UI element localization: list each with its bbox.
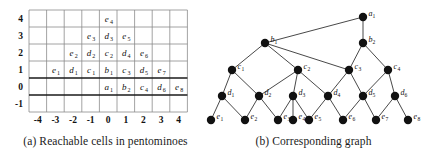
svg-text:e: e xyxy=(122,31,126,41)
node-dot xyxy=(339,116,347,124)
svg-text:1: 1 xyxy=(92,70,95,76)
svg-text:2: 2 xyxy=(308,66,311,72)
x-axis-tick-label: 3 xyxy=(159,115,164,125)
graph-node-c4: c4 xyxy=(384,62,401,74)
svg-text:8: 8 xyxy=(418,116,421,122)
correspondence-graph: a1b1b2c1c2c3c4d1d2d3d4d5d6e1e2e3e4e5e6e7… xyxy=(205,0,422,130)
x-axis-tick-label: -4 xyxy=(34,115,42,125)
svg-text:c: c xyxy=(140,82,144,92)
x-axis-tick-label: 1 xyxy=(123,115,128,125)
svg-text:c: c xyxy=(105,48,109,58)
svg-text:2: 2 xyxy=(92,53,95,59)
node-dot xyxy=(207,116,215,124)
x-axis-tick-label: -3 xyxy=(51,115,59,125)
pentomino-grid: e4e3d3e5e2d2c2d4e6e1d1c1b1c3d5e7a1b2c4d6… xyxy=(0,0,211,128)
grid-cell-label-e6: e6 xyxy=(140,48,148,59)
svg-text:e: e xyxy=(87,31,91,41)
node-dot xyxy=(274,116,282,124)
graph-node-a1: a1 xyxy=(359,9,376,21)
grid-cell-label-e5: e5 xyxy=(122,31,130,42)
svg-text:1: 1 xyxy=(242,66,245,72)
figure-two-panels: e4e3d3e5e2d2c2d4e6e1d1c1b1c3d5e7a1b2c4d6… xyxy=(0,0,422,149)
grid-cell-label-d1: d1 xyxy=(69,65,77,76)
graph-node-c2: c2 xyxy=(294,62,311,74)
y-axis-tick-label: -1 xyxy=(15,99,23,109)
svg-text:2: 2 xyxy=(373,39,376,45)
node-dot xyxy=(289,92,297,100)
svg-text:d: d xyxy=(140,65,145,75)
node-dot xyxy=(391,92,399,100)
grid-cell-label-e8: e8 xyxy=(175,82,183,93)
y-axis-tick-label: 3 xyxy=(18,31,23,41)
x-axis-tick-label: -2 xyxy=(69,115,77,125)
y-axis-tick-label: 1 xyxy=(18,65,23,75)
svg-text:3: 3 xyxy=(110,36,113,42)
svg-text:1: 1 xyxy=(57,70,60,76)
graph-edge xyxy=(265,17,363,43)
x-axis-tick-label: 2 xyxy=(141,115,146,125)
grid-cell-label-c1: c1 xyxy=(87,65,95,76)
svg-text:4: 4 xyxy=(128,53,131,59)
svg-text:7: 7 xyxy=(386,116,389,122)
svg-text:c: c xyxy=(122,65,126,75)
graph-node-e8: e8 xyxy=(404,112,421,124)
svg-text:5: 5 xyxy=(145,70,148,76)
node-dot xyxy=(384,66,392,74)
graph-edge xyxy=(363,70,388,96)
y-axis-tick-label: 0 xyxy=(18,82,23,92)
y-axis-tick-label: 4 xyxy=(18,14,23,24)
grid-cell-label-d4: d4 xyxy=(122,48,130,59)
svg-text:d: d xyxy=(157,82,162,92)
graph-node-c3: c3 xyxy=(345,62,362,74)
graph-edge xyxy=(363,43,388,70)
svg-text:e: e xyxy=(105,14,109,24)
graph-node-e1: e1 xyxy=(207,112,224,124)
svg-text:4: 4 xyxy=(398,66,401,72)
svg-text:d: d xyxy=(122,48,127,58)
svg-text:1: 1 xyxy=(75,70,78,76)
node-dot xyxy=(345,66,353,74)
svg-text:e: e xyxy=(175,82,179,92)
svg-text:2: 2 xyxy=(255,116,258,122)
svg-text:e: e xyxy=(70,48,74,58)
grid-cell-label-e3: e3 xyxy=(87,31,95,42)
svg-text:5: 5 xyxy=(373,92,376,98)
graph-node-d1: d1 xyxy=(218,88,235,100)
x-axis-tick-label: 0 xyxy=(106,115,111,125)
svg-text:4: 4 xyxy=(110,19,113,25)
svg-text:6: 6 xyxy=(163,87,166,93)
svg-text:1: 1 xyxy=(232,92,235,98)
grid-cell-label-c4: c4 xyxy=(140,82,148,93)
graph-node-d5: d5 xyxy=(359,88,376,100)
node-dot xyxy=(261,39,269,47)
graph-edge xyxy=(259,96,278,120)
grid-cell-label-d3: d3 xyxy=(104,31,112,42)
grid-cell-label-c2: c2 xyxy=(105,48,113,59)
grid-cell-label-d5: d5 xyxy=(140,65,148,76)
grid-cell-label-d2: d2 xyxy=(87,48,95,59)
grid-cell-label-b1: b1 xyxy=(104,65,112,76)
svg-text:6: 6 xyxy=(405,92,408,98)
node-dot xyxy=(241,116,249,124)
graph-node-c1: c1 xyxy=(228,62,245,74)
graph-edge xyxy=(328,96,343,120)
grid-cell-label-e2: e2 xyxy=(70,48,78,59)
svg-text:8: 8 xyxy=(180,87,183,93)
svg-text:1: 1 xyxy=(110,70,113,76)
svg-text:4: 4 xyxy=(145,87,148,93)
graph-node-e5: e5 xyxy=(305,112,322,124)
svg-text:1: 1 xyxy=(110,87,113,93)
graph-edge xyxy=(232,70,259,96)
node-dot xyxy=(289,116,297,124)
grid-cell-label-b2: b2 xyxy=(122,82,130,93)
node-dot xyxy=(294,66,302,74)
svg-text:5: 5 xyxy=(128,36,131,42)
grid-cell-label-a1: a1 xyxy=(104,82,112,93)
svg-text:d: d xyxy=(69,65,74,75)
svg-text:2: 2 xyxy=(110,53,113,59)
graph-edge xyxy=(265,43,298,70)
node-dot xyxy=(228,66,236,74)
svg-text:2: 2 xyxy=(75,53,78,59)
grid-cell-label-e4: e4 xyxy=(105,14,113,25)
svg-text:3: 3 xyxy=(92,36,95,42)
